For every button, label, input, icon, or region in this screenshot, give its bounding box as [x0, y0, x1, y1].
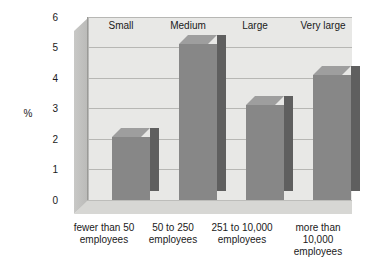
bar-chart: % 6 5 4 3 2 1 0 [0, 0, 367, 270]
y-tick-label-1: 1 [42, 164, 58, 175]
x-tick-line-3: employees [278, 246, 358, 258]
plot-floor-seam [88, 200, 352, 201]
bar-side-large [284, 96, 293, 191]
bar-top-large [246, 96, 284, 105]
y-tick-label-0: 0 [42, 195, 58, 206]
x-tick-label-more-than-10000: more than 10,000 employees [278, 222, 358, 258]
bar-front-very-large [313, 75, 351, 200]
group-header-small: Small [88, 20, 154, 31]
bar-top-very-large [313, 66, 351, 75]
y-tick-label-6: 6 [42, 12, 58, 23]
y-axis-title: % [18, 108, 38, 119]
y-tick-label-2: 2 [42, 134, 58, 145]
bar-top-medium [179, 35, 217, 44]
y-axis-line [87, 17, 88, 201]
bar-very-large [313, 66, 351, 200]
plot-area [74, 17, 352, 214]
group-header-medium: Medium [155, 20, 221, 31]
group-header-large: Large [222, 20, 288, 31]
bar-top-small [112, 128, 150, 137]
bar-side-very-large [351, 66, 360, 191]
x-tick-label-251-to-10000: 251 to 10,000 employees [196, 222, 288, 246]
y-tick-label-5: 5 [42, 42, 58, 53]
bar-large [246, 96, 284, 200]
x-tick-line-2: 10,000 [278, 234, 358, 246]
bar-side-small [150, 128, 159, 191]
plot-floor [74, 200, 352, 214]
bar-front-medium [179, 44, 217, 200]
bar-small [112, 128, 150, 200]
bar-side-medium [217, 35, 226, 191]
x-tick-line-1: 251 to 10,000 [196, 222, 288, 234]
gridline-6 [88, 17, 352, 18]
x-tick-line-2: employees [196, 234, 288, 246]
y-tick-label-3: 3 [42, 103, 58, 114]
bar-front-small [112, 137, 150, 200]
x-tick-line-1: more than [278, 222, 358, 234]
y-tick-label-4: 4 [42, 73, 58, 84]
bar-medium [179, 35, 217, 200]
group-header-very-large: Very large [288, 20, 358, 31]
bar-front-large [246, 105, 284, 200]
